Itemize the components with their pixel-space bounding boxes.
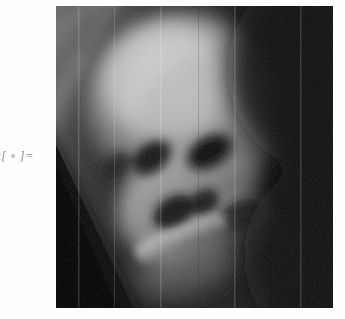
skull-raster-svg <box>56 6 333 308</box>
output-cell-label[interactable]: ut[ ∘ ]= <box>0 146 49 166</box>
skull-graphic-output[interactable] <box>56 6 333 308</box>
notebook-output-cell: ut[ ∘ ]= <box>0 0 345 319</box>
